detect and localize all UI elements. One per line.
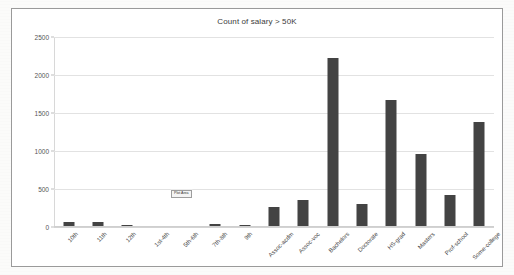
bar-slot: 5th-6th — [171, 37, 200, 227]
x-axis-label-12th: 12th — [125, 231, 137, 243]
x-axis-label-doctorate: Doctorate — [357, 231, 379, 253]
chart-container[interactable]: Count of salary > 50K 050010001500200025… — [11, 8, 503, 267]
x-axis-label-7th-8th: 7th-8th — [212, 231, 229, 248]
bar-slot: Prof-school — [435, 37, 464, 227]
x-axis-label-assoc-acdm: Assoc-acdm — [267, 231, 294, 258]
x-axis-label-10th: 10th — [66, 231, 78, 243]
bar-slot: 11th — [83, 37, 112, 227]
bar-slot: Some-college — [465, 37, 494, 227]
x-axis-line — [54, 226, 494, 227]
plot-area-tooltip: Plot Area — [171, 190, 192, 198]
bar-some-college[interactable] — [474, 122, 485, 227]
x-axis-label-prof-school: Prof-school — [444, 231, 469, 256]
gridline-0 — [54, 227, 494, 228]
x-axis-label-1st-4th: 1st-4th — [153, 231, 170, 248]
x-axis-label-5th-6th: 5th-6th — [182, 231, 199, 248]
bar-assoc-voc[interactable] — [298, 200, 309, 227]
bar-prof-school[interactable] — [444, 195, 455, 227]
bar-slot: 1st-4th — [142, 37, 171, 227]
bar-slot: 10th — [54, 37, 83, 227]
y-axis-label-2000: 2000 — [35, 72, 49, 79]
y-axis-label-1000: 1000 — [35, 148, 49, 155]
bar-slot: Assoc-acdm — [259, 37, 288, 227]
bar-slot: Masters — [406, 37, 435, 227]
bar-masters[interactable] — [415, 154, 426, 227]
y-axis-label-500: 500 — [38, 186, 49, 193]
x-axis-label-masters: Masters — [416, 231, 435, 250]
bar-slot: 12th — [113, 37, 142, 227]
x-axis-label-assoc-voc: Assoc-voc — [298, 231, 322, 255]
bar-slot: HS-grad — [377, 37, 406, 227]
bar-bachelors[interactable] — [327, 58, 338, 227]
bar-assoc-acdm[interactable] — [268, 207, 279, 227]
plot-area[interactable]: 05001000150020002500 10th11th12th1st-4th… — [54, 37, 494, 227]
x-axis-label-9th: 9th — [243, 231, 253, 241]
bars-group[interactable]: 10th11th12th1st-4th5th-6th7th-8th9thAsso… — [54, 37, 494, 227]
y-axis-label-0: 0 — [45, 224, 49, 231]
y-axis-label-1500: 1500 — [35, 110, 49, 117]
x-axis-label-11th: 11th — [96, 231, 108, 243]
bar-slot: 9th — [230, 37, 259, 227]
chart-title: Count of salary > 50K — [12, 17, 502, 26]
bar-slot: 7th-8th — [201, 37, 230, 227]
y-axis-label-2500: 2500 — [35, 34, 49, 41]
x-axis-label-some-college: Some-college — [472, 231, 502, 261]
bar-slot: Doctorate — [347, 37, 376, 227]
bar-hs-grad[interactable] — [386, 100, 397, 227]
bar-slot: Bachelors — [318, 37, 347, 227]
x-axis-label-hs-grad: HS-grad — [387, 231, 407, 251]
x-axis-label-bachelors: Bachelors — [327, 231, 350, 254]
bar-slot: Assoc-voc — [289, 37, 318, 227]
bar-doctorate[interactable] — [356, 204, 367, 227]
